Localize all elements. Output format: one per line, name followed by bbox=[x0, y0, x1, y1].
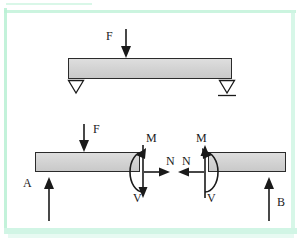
reaction-arrow-A bbox=[44, 177, 54, 221]
left-cut-normal-arrow-N bbox=[144, 168, 170, 177]
right-shear-label-V: V bbox=[207, 192, 216, 204]
reaction-label-B: B bbox=[277, 196, 285, 208]
left-normal-label-N: N bbox=[166, 155, 175, 167]
right-normal-label-N: N bbox=[182, 155, 191, 167]
right-moment-label-M: M bbox=[196, 132, 207, 144]
reaction-arrow-B bbox=[264, 177, 274, 221]
reaction-label-A: A bbox=[23, 177, 32, 189]
bottom-load-label-F: F bbox=[93, 123, 100, 135]
bottom-diagram-annotations bbox=[0, 0, 302, 242]
left-moment-label-M: M bbox=[146, 132, 157, 144]
left-shear-label-V: V bbox=[133, 192, 142, 204]
figure-canvas: F bbox=[0, 0, 302, 242]
right-cut-normal-arrow-N bbox=[178, 168, 204, 177]
bottom-load-arrow-F bbox=[79, 124, 89, 152]
